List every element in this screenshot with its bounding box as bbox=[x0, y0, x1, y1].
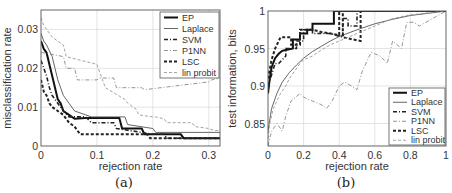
x-tick-label: 0.8 bbox=[403, 149, 418, 161]
legend-label: lin probit bbox=[411, 135, 446, 145]
x-axis-label: rejection rate bbox=[325, 160, 389, 172]
y-tick-label: 0 bbox=[32, 140, 38, 152]
legend-label: EP bbox=[182, 13, 194, 23]
y-tick-label: 0.01 bbox=[18, 101, 39, 113]
chart-panel-a: 00.10.20.300.010.020.03rejection ratemis… bbox=[1, 10, 220, 190]
x-tick-label: 1 bbox=[443, 149, 449, 161]
series-lsc bbox=[268, 11, 446, 79]
y-tick-label: 0.02 bbox=[18, 62, 39, 74]
legend-label: P1NN bbox=[411, 116, 435, 126]
figure: 00.10.20.300.010.020.03rejection ratemis… bbox=[0, 0, 452, 193]
legend-label: LSC bbox=[182, 57, 200, 67]
y-tick-label: 1 bbox=[259, 5, 265, 17]
legend-label: SVM bbox=[182, 35, 202, 45]
x-tick-label: 0 bbox=[265, 149, 271, 161]
y-tick-label: 0.95 bbox=[245, 43, 266, 55]
legend-label: P1NN bbox=[182, 46, 206, 56]
panel-caption: (a) bbox=[115, 175, 133, 190]
legend-label: LSC bbox=[411, 126, 429, 136]
legend: EPLaplaceSVMP1NNLSClin probit bbox=[389, 88, 446, 146]
legend: EPLaplaceSVMP1NNLSClin probit bbox=[160, 12, 219, 78]
legend-label: EP bbox=[411, 88, 423, 98]
x-tick-label: 0.2 bbox=[296, 149, 311, 161]
legend-label: Laplace bbox=[182, 24, 214, 34]
x-axis-label: rejection rate bbox=[99, 160, 163, 172]
y-axis-label: test information, bits bbox=[226, 29, 238, 128]
legend-label: SVM bbox=[411, 107, 431, 117]
x-tick-label: 0 bbox=[38, 149, 44, 161]
y-tick-label: 0.03 bbox=[18, 23, 39, 35]
x-tick-label: 0.3 bbox=[202, 149, 217, 161]
panel-caption: (b) bbox=[337, 175, 355, 190]
y-tick-label: 0.9 bbox=[250, 80, 265, 92]
legend-label: lin probit bbox=[182, 68, 217, 78]
y-axis-label: misclassification rate bbox=[1, 27, 13, 128]
legend-label: Laplace bbox=[411, 97, 443, 107]
y-tick-label: 0.85 bbox=[245, 118, 266, 130]
chart-panel-b: 00.20.40.60.810.850.90.951rejection rate… bbox=[226, 5, 449, 190]
